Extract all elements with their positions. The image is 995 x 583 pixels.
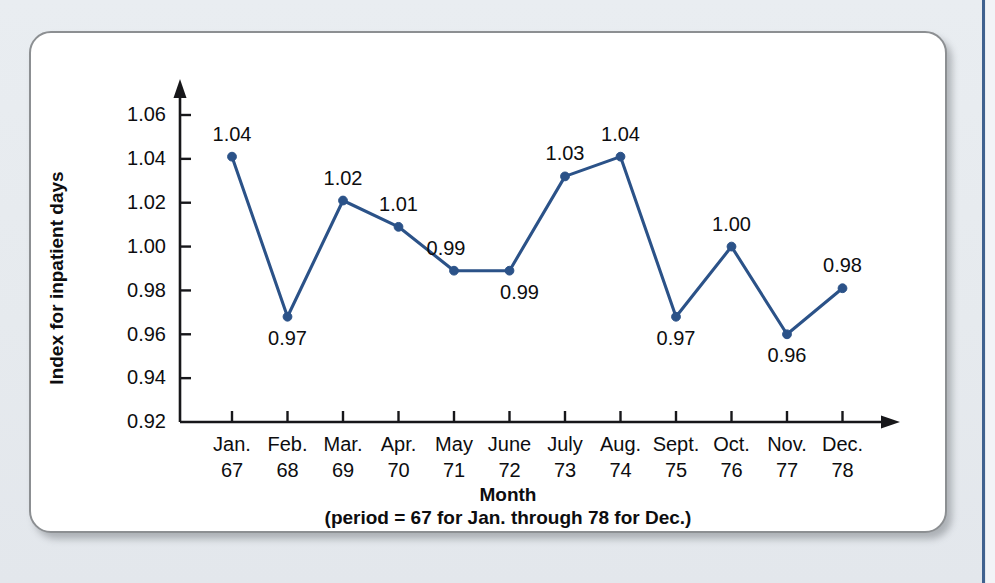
y-tick-label: 0.96 <box>127 323 166 345</box>
data-point-value-label: 1.00 <box>712 213 751 235</box>
x-axis-arrow-icon <box>881 416 900 429</box>
x-tick-label-period: 78 <box>831 459 853 481</box>
data-point-marker <box>283 312 292 321</box>
y-tick-label: 1.06 <box>127 103 166 125</box>
x-tick-label-period: 71 <box>443 459 465 481</box>
x-tick-label-month: May <box>435 433 473 455</box>
y-tick-label: 0.92 <box>127 410 166 432</box>
x-tick-label-period: 67 <box>221 459 243 481</box>
data-point-labels: 1.040.971.021.010.990.991.031.040.971.00… <box>213 123 862 367</box>
x-tick-label-period: 74 <box>609 459 631 481</box>
x-tick-label-month: Feb. <box>267 433 307 455</box>
x-tick-label-period: 69 <box>332 459 354 481</box>
page-edge-margin <box>986 0 995 583</box>
x-tick-labels: Jan.67Feb.68Mar.69Apr.70May71June72July7… <box>213 433 863 481</box>
x-tick-label-month: Jan. <box>213 433 251 455</box>
y-tick-labels: 0.920.940.960.981.001.021.041.06 <box>127 103 166 432</box>
x-tick-label-period: 68 <box>276 459 298 481</box>
x-tick-label-period: 76 <box>720 459 742 481</box>
x-tick-label-period: 77 <box>776 459 798 481</box>
x-tick-label-month: Apr. <box>381 433 417 455</box>
data-point-value-label: 0.96 <box>768 344 807 366</box>
x-tick-label-month: July <box>547 433 583 455</box>
data-point-value-label: 1.01 <box>379 193 418 215</box>
data-point-marker <box>672 312 681 321</box>
data-point-value-label: 1.04 <box>601 123 640 145</box>
screenshot-page: Index for inpatient days 0.920.940.960.9… <box>0 0 995 583</box>
y-tick-label: 1.02 <box>127 191 166 213</box>
data-point-value-label: 0.97 <box>657 327 696 349</box>
data-point-marker <box>505 266 514 275</box>
x-tick-label-period: 70 <box>387 459 409 481</box>
data-point-marker <box>339 196 348 205</box>
data-point-marker <box>450 266 459 275</box>
data-point-value-label: 0.97 <box>268 327 307 349</box>
x-tick-label-period: 75 <box>665 459 687 481</box>
y-axis-title: Index for inpatient days <box>46 171 67 384</box>
y-axis-arrow-icon <box>174 79 187 98</box>
x-tick-label-period: 72 <box>498 459 520 481</box>
data-point-marker <box>783 330 792 339</box>
data-point-marker <box>727 242 736 251</box>
data-point-marker <box>561 172 570 181</box>
axes-group <box>174 79 901 429</box>
data-point-value-label: 1.03 <box>546 142 585 164</box>
x-axis-title: Month <box>480 484 537 505</box>
x-tick-label-month: Mar. <box>324 433 363 455</box>
figure-card: Index for inpatient days 0.920.940.960.9… <box>29 31 947 533</box>
data-point-value-label: 0.99 <box>500 281 539 303</box>
data-point-marker <box>616 152 625 161</box>
page-edge-rule <box>982 0 985 583</box>
x-tick-label-month: Sept. <box>653 433 700 455</box>
data-point-marker <box>228 152 237 161</box>
line-chart: Index for inpatient days 0.920.940.960.9… <box>31 33 949 535</box>
y-tick-label: 0.98 <box>127 279 166 301</box>
x-tick-label-month: Nov. <box>767 433 807 455</box>
x-tick-label-month: Oct. <box>713 433 750 455</box>
data-point-marker <box>394 222 403 231</box>
chart-canvas: Index for inpatient days 0.920.940.960.9… <box>31 33 949 535</box>
y-tick-label: 1.00 <box>127 235 166 257</box>
x-tick-label-period: 73 <box>554 459 576 481</box>
x-axis-subtitle: (period = 67 for Jan. through 78 for Dec… <box>325 507 692 528</box>
y-tick-label: 1.04 <box>127 147 166 169</box>
x-tick-label-month: Dec. <box>822 433 863 455</box>
data-point-value-label: 0.98 <box>823 254 862 276</box>
data-point-value-label: 1.04 <box>213 123 252 145</box>
data-point-marker <box>838 284 847 293</box>
x-tick-label-month: Aug. <box>600 433 641 455</box>
x-tick-label-month: June <box>488 433 531 455</box>
data-point-value-label: 0.99 <box>427 237 466 259</box>
y-tick-label: 0.94 <box>127 366 166 388</box>
data-point-value-label: 1.02 <box>324 167 363 189</box>
